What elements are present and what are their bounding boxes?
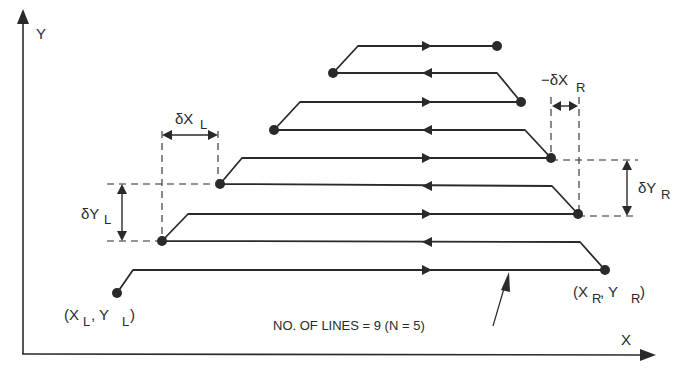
svg-text:R: R: [576, 80, 585, 95]
scan-path: [117, 46, 605, 293]
label-dx-left: δX L: [175, 110, 207, 132]
svg-text:R: R: [661, 187, 670, 202]
arrow-left-icon: [422, 68, 432, 78]
turn-points: [112, 41, 610, 298]
x-axis-label: X: [621, 331, 631, 348]
svg-text:R: R: [631, 291, 640, 306]
label-end-point: (X R , Y R ): [573, 283, 645, 306]
arrow-right-icon: [422, 209, 432, 219]
svg-text:L: L: [200, 117, 207, 132]
svg-text:(X: (X: [573, 283, 588, 300]
label-start-point: (X L , Y L ): [64, 306, 135, 329]
annotation-leader: [493, 272, 510, 326]
svg-text:L: L: [83, 314, 90, 329]
arrow-left-icon: [422, 125, 432, 135]
end-dot: [492, 41, 502, 51]
leader-arrow-icon: [501, 272, 510, 292]
x-axis-arrow-icon: [640, 349, 656, 361]
label-dy-left: δY L: [81, 205, 111, 227]
direction-arrows: [422, 41, 432, 275]
y-axis-label: Y: [36, 25, 46, 42]
svg-text:): ): [640, 283, 645, 300]
dot: [516, 97, 526, 107]
svg-text:δY: δY: [81, 205, 99, 222]
start-dot: [112, 288, 122, 298]
svg-text:δY: δY: [638, 179, 656, 196]
label-dy-right: δY R: [638, 179, 670, 202]
dimension-arrows: [117, 101, 632, 241]
y-axis-arrow-icon: [17, 9, 29, 24]
svg-text:): ): [130, 306, 135, 323]
arrow-left-icon: [422, 237, 432, 247]
svg-text:−δX: −δX: [541, 71, 568, 88]
y-axis: [17, 9, 29, 354]
dot: [573, 209, 583, 219]
arrow-right-icon: [422, 41, 432, 51]
scan-path-diagram: Y X: [0, 0, 683, 371]
svg-text:L: L: [122, 314, 129, 329]
arrow-left-icon: [422, 181, 432, 191]
arrow-right-icon: [422, 97, 432, 107]
svg-text:, Y: , Y: [600, 283, 618, 300]
x-axis: [22, 349, 656, 361]
arrow-right-icon: [422, 265, 432, 275]
svg-text:(X: (X: [64, 306, 79, 323]
dot: [328, 68, 338, 78]
dot: [269, 125, 279, 135]
label-dx-right: −δX R: [541, 71, 585, 95]
line-count-annotation: NO. OF LINES = 9 (N = 5): [273, 318, 425, 333]
svg-text:, Y: , Y: [91, 306, 109, 323]
dot: [600, 265, 610, 275]
svg-text:δX: δX: [175, 110, 193, 127]
arrow-right-icon: [422, 153, 432, 163]
svg-text:L: L: [104, 212, 111, 227]
